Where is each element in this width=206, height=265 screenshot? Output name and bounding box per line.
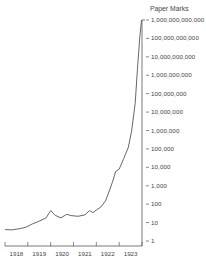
y-tick-label: 1,000: [151, 182, 167, 189]
y-tick-label: 10: [151, 219, 158, 226]
y-axis-title: Paper Marks: [150, 5, 189, 12]
y-tick-label: 1,000,000,000: [151, 71, 192, 78]
y-tick-label: 100,000: [151, 145, 174, 152]
x-tick-label: 1922: [101, 250, 115, 257]
y-tick-label: 100,000,000: [151, 90, 187, 97]
x-tick-label: 1919: [32, 250, 46, 257]
y-tick-label: 1,000,000,000,000: [151, 16, 204, 23]
x-tick-label: 1921: [78, 250, 92, 257]
y-tick-label: 10,000,000,000: [151, 53, 195, 60]
x-tick-label: 1918: [10, 250, 24, 257]
x-ticks: [5, 242, 142, 246]
y-tick-label: 1: [151, 237, 155, 244]
y-tick-label: 1,000,000: [151, 127, 179, 134]
x-tick-label: 1923: [124, 250, 138, 257]
series-line: [5, 20, 142, 230]
y-tick-label: 10,000,000: [151, 108, 183, 115]
x-tick-label: 1920: [55, 250, 69, 257]
y-tick-label: 100: [151, 200, 162, 207]
y-tick-label: 100,000,000,000: [151, 34, 199, 41]
y-tick-label: 10,000: [151, 163, 171, 170]
y-ticks: [146, 20, 149, 241]
